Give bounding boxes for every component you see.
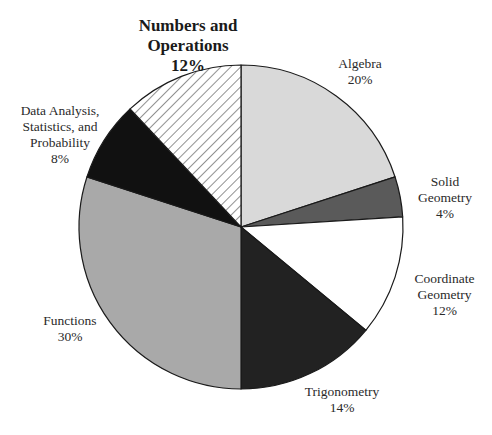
label-percent: 20% [310, 72, 410, 88]
label-percent: 12% [397, 303, 492, 319]
label-numbers-operations: Numbers and Operations 12% [118, 16, 258, 76]
label-coordinate-geometry: Coordinate Geometry 12% [397, 271, 492, 319]
label-line: Algebra [310, 56, 410, 72]
label-line: Coordinate [397, 271, 492, 287]
label-data-analysis: Data Analysis, Statistics, and Probabili… [8, 103, 112, 167]
label-solid-geometry: Solid Geometry 4% [405, 174, 485, 222]
label-percent: 12% [118, 56, 258, 76]
label-line: Geometry [405, 190, 485, 206]
label-functions: Functions 30% [25, 313, 115, 345]
label-percent: 4% [405, 206, 485, 222]
label-trigonometry: Trigonometry 14% [287, 384, 397, 416]
label-line: Numbers and [118, 16, 258, 36]
label-line: Operations [118, 36, 258, 56]
label-line: Statistics, and [8, 119, 112, 135]
pie-chart: Numbers and Operations 12% Algebra 20% S… [0, 0, 492, 435]
label-line: Probability [8, 135, 112, 151]
label-line: Functions [25, 313, 115, 329]
label-algebra: Algebra 20% [310, 56, 410, 88]
label-line: Data Analysis, [8, 103, 112, 119]
label-line: Trigonometry [287, 384, 397, 400]
label-line: Solid [405, 174, 485, 190]
label-percent: 8% [8, 151, 112, 167]
label-percent: 14% [287, 400, 397, 416]
label-percent: 30% [25, 329, 115, 345]
label-line: Geometry [397, 287, 492, 303]
